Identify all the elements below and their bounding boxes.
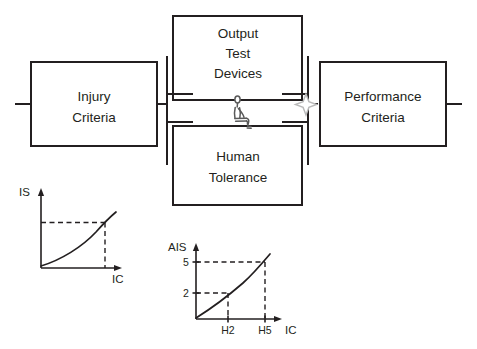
chart1-y-axis-arrow [38, 188, 44, 196]
output-test-devices-label-line2: Test [226, 46, 251, 61]
human-tolerance-label-line1: Human [216, 149, 260, 164]
left-bracket-upper [167, 56, 193, 94]
chart2-xtick-label-h2: H2 [221, 324, 235, 336]
performance-criteria-label-line2: Criteria [361, 110, 405, 125]
chart2-ytick-label-5: 5 [183, 256, 189, 268]
chart2-xtick-label-h5: H5 [258, 324, 272, 336]
output-test-devices-label-line1: Output [218, 26, 259, 41]
chart-ais-vs-ic: 5 2 H2 H5 AIS IC [168, 241, 297, 336]
chart1-y-axis-label: IS [19, 186, 30, 198]
chart2-y-axis-label: AIS [168, 241, 187, 253]
right-bracket-upper [282, 56, 308, 94]
performance-criteria-box[interactable] [320, 62, 446, 146]
left-bracket-lower [167, 122, 193, 165]
human-tolerance-box[interactable] [173, 126, 302, 205]
chart2-y-axis-arrow [193, 243, 199, 251]
injury-criteria-label-line2: Criteria [72, 110, 116, 125]
right-bracket-lower [282, 122, 308, 165]
performance-criteria-label-line1: Performance [344, 89, 421, 104]
diagram-root: Injury Criteria Output Test Devices Huma… [0, 0, 477, 349]
chart2-ytick-label-2: 2 [183, 287, 189, 299]
chart2-curve [196, 254, 270, 318]
human-tolerance-label-line2: Tolerance [209, 170, 268, 185]
chart1-x-axis-label: IC [112, 273, 124, 285]
chart2-x-axis-label: IC [285, 324, 297, 336]
injury-criteria-box[interactable] [31, 62, 157, 146]
chart1-x-axis-arrow [114, 265, 122, 271]
output-test-devices-label-line3: Devices [214, 66, 262, 81]
star-icon [295, 94, 316, 115]
injury-criteria-label-line1: Injury [77, 89, 110, 104]
chart2-x-axis-arrow [274, 316, 282, 322]
chart-is-vs-ic: IS IC [19, 186, 124, 285]
